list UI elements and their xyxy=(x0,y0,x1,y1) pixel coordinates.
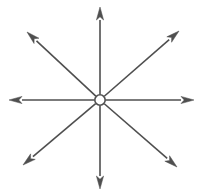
origin-point-group xyxy=(95,95,105,105)
origin-point-circle xyxy=(95,95,105,105)
ray-diagram-svg xyxy=(0,0,201,195)
ray-diagram-figure xyxy=(0,0,201,195)
